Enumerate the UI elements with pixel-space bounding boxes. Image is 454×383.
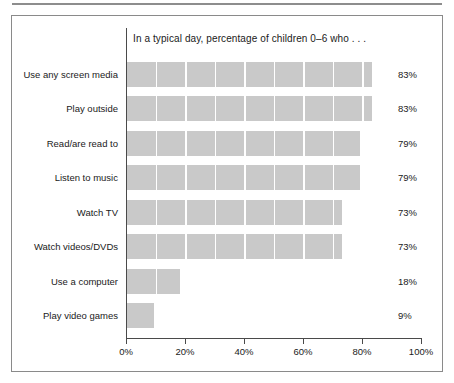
x-tick-80 [362, 339, 363, 344]
x-tick-100 [421, 339, 422, 344]
x-tick-20 [185, 339, 186, 344]
bar-play-outside [127, 96, 372, 121]
gridline-80 [362, 62, 364, 338]
bar-use-any-screen-media [127, 62, 372, 87]
x-tick-60 [303, 339, 304, 344]
x-tick-label-40: 40% [224, 346, 264, 357]
gridline-30 [215, 62, 217, 338]
gridline-40 [244, 62, 246, 338]
value-label-listen-to-music: 79% [398, 172, 417, 183]
bar-watch-tv [127, 200, 342, 225]
x-axis-line [126, 338, 422, 339]
category-label-use-any-screen-media: Use any screen media [23, 69, 118, 80]
gridline-90 [392, 62, 394, 338]
value-label-watch-videos-dvds: 73% [398, 241, 417, 252]
x-tick-label-60: 60% [283, 346, 323, 357]
x-tick-label-0: 0% [106, 346, 146, 357]
category-label-listen-to-music: Listen to music [55, 172, 118, 183]
gridline-70 [333, 62, 335, 338]
chart-title: In a typical day, percentage of children… [133, 33, 366, 44]
x-tick-40 [244, 339, 245, 344]
y-axis-line [126, 28, 127, 339]
category-label-play-outside: Play outside [66, 103, 118, 114]
bar-watch-videos-dvds [127, 234, 342, 259]
gridline-10 [156, 62, 158, 338]
x-tick-label-80: 80% [342, 346, 382, 357]
x-tick-0 [126, 339, 127, 344]
value-label-use-a-computer: 18% [398, 276, 417, 287]
x-tick-label-20: 20% [165, 346, 205, 357]
value-label-play-video-games: 9% [398, 310, 412, 321]
gridline-50 [274, 62, 276, 338]
category-label-watch-tv: Watch TV [77, 207, 118, 218]
x-tick-label-100: 100% [401, 346, 441, 357]
value-label-play-outside: 83% [398, 103, 417, 114]
value-label-watch-tv: 73% [398, 207, 417, 218]
bar-chart: In a typical day, percentage of children… [0, 0, 454, 383]
value-label-read-are-read-to: 79% [398, 138, 417, 149]
category-label-read-are-read-to: Read/are read to [47, 138, 118, 149]
gridline-60 [303, 62, 305, 338]
category-label-use-a-computer: Use a computer [51, 276, 118, 287]
category-label-watch-videos-dvds: Watch videos/DVDs [34, 241, 118, 252]
bar-use-a-computer [127, 269, 180, 294]
category-label-play-video-games: Play video games [43, 310, 118, 321]
value-label-use-any-screen-media: 83% [398, 69, 417, 80]
bar-play-video-games [127, 303, 154, 328]
gridline-20 [185, 62, 187, 338]
